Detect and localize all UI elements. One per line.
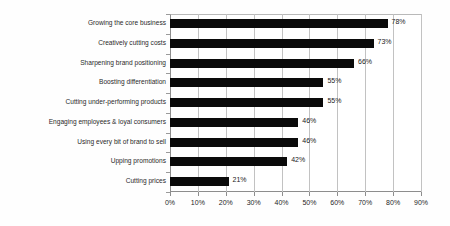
bar-row[interactable]: 73%: [170, 34, 421, 53]
bar[interactable]: [170, 118, 298, 127]
bar-value-label: 21%: [233, 175, 247, 185]
x-axis-tick: [309, 192, 310, 196]
x-axis-tick: [226, 192, 227, 196]
bar-value-label: 55%: [327, 96, 341, 106]
bar[interactable]: [170, 39, 374, 48]
x-axis-tick-label: 40%: [267, 198, 297, 208]
x-axis-tick: [254, 192, 255, 196]
category-label: Boosting differentiation: [16, 77, 166, 87]
bar-value-label: 55%: [327, 76, 341, 86]
bar[interactable]: [170, 59, 354, 68]
bar-value-label: 46%: [302, 116, 316, 126]
bar[interactable]: [170, 19, 388, 28]
bar-row[interactable]: 21%: [170, 172, 421, 191]
bar-row[interactable]: 46%: [170, 133, 421, 152]
gridline-90: [421, 14, 422, 192]
bar[interactable]: [170, 157, 287, 166]
bar[interactable]: [170, 177, 229, 186]
x-axis-tick-label: 20%: [211, 198, 241, 208]
x-axis-tick: [170, 192, 171, 196]
category-label: Engaging employees & loyal consumers: [16, 117, 166, 127]
category-label: Cutting prices: [16, 176, 166, 186]
x-axis-tick-label: 70%: [350, 198, 380, 208]
bar-row[interactable]: 55%: [170, 73, 421, 92]
category-label: Growing the core business: [16, 18, 166, 28]
x-axis-tick-label: 80%: [378, 198, 408, 208]
category-label: Creatively cutting costs: [16, 38, 166, 48]
bar-row[interactable]: 78%: [170, 14, 421, 33]
x-axis-tick: [282, 192, 283, 196]
x-axis-tick-label: 90%: [406, 198, 436, 208]
x-axis-tick-label: 10%: [183, 198, 213, 208]
bar-value-label: 66%: [358, 57, 372, 67]
x-axis-tick: [337, 192, 338, 196]
bar-row[interactable]: 42%: [170, 152, 421, 171]
bar-row[interactable]: 55%: [170, 93, 421, 112]
x-axis-tick-label: 50%: [294, 198, 324, 208]
bar-value-label: 42%: [291, 155, 305, 165]
bar[interactable]: [170, 98, 323, 107]
category-label: Using every bit of brand to sell: [16, 137, 166, 147]
x-axis-tick-label: 0%: [155, 198, 185, 208]
bar-row[interactable]: 66%: [170, 54, 421, 73]
bar[interactable]: [170, 78, 323, 87]
x-axis-tick: [421, 192, 422, 196]
bar-value-label: 78%: [392, 17, 406, 27]
category-label: Upping promotions: [16, 156, 166, 166]
x-axis-tick-label: 60%: [322, 198, 352, 208]
bar-chart-figure: 78%73%66%55%55%46%46%42%21% Growing the …: [0, 0, 450, 226]
bar-value-label: 73%: [378, 37, 392, 47]
x-axis-tick-label: 30%: [239, 198, 269, 208]
x-axis-tick: [393, 192, 394, 196]
category-label: Sharpening brand positioning: [16, 58, 166, 68]
x-axis-tick: [198, 192, 199, 196]
bar-value-label: 46%: [302, 136, 316, 146]
category-label: Cutting under-performing products: [16, 97, 166, 107]
bar[interactable]: [170, 138, 298, 147]
x-axis-tick: [365, 192, 366, 196]
bar-row[interactable]: 46%: [170, 113, 421, 132]
